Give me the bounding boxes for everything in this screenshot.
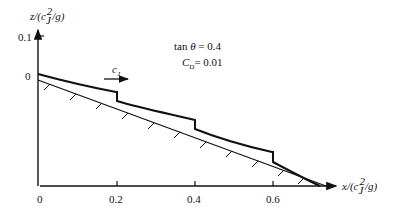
x-tick-label-0.4: 0.4 — [187, 193, 201, 205]
x-axis — [40, 181, 336, 186]
tan-theta-annotation: tan θ = 0.4 — [174, 40, 222, 52]
y-tick-label-0: 0 — [25, 70, 31, 82]
current-surface-profile — [38, 74, 320, 186]
y-tick-label-0.1: 0.1 — [18, 31, 32, 43]
x-tick-label-0: 0 — [37, 193, 43, 205]
bed-hatching — [44, 84, 304, 184]
sloping-bed — [38, 80, 326, 186]
x-tick-label-0.6: 0.6 — [266, 193, 280, 205]
x-axis-label: x/(cJ2/g) — [341, 175, 377, 196]
gravity-current-diagram: z/(cJ2/g) 0.1 0 0 0.2 0.4 0.6 x/(cJ2/g) … — [0, 0, 399, 215]
x-tick-label-0.2: 0.2 — [109, 193, 123, 205]
y-axis — [38, 30, 44, 186]
drag-coefficient-annotation: CD= 0.01 — [182, 56, 223, 71]
y-axis-label: z/(cJ2/g) — [29, 5, 65, 26]
velocity-label: cJ — [112, 63, 121, 78]
